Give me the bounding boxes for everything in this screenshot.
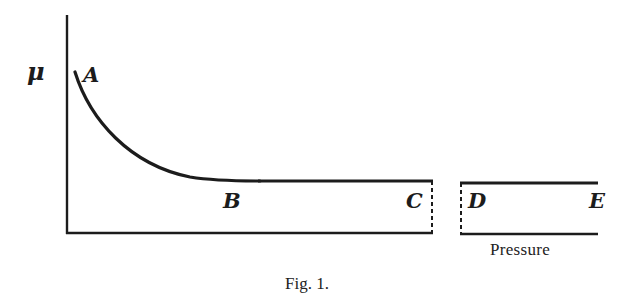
figure-1: μ A B C D E Pressure Fig. 1.	[0, 0, 641, 307]
y-axis-label: μ	[27, 60, 45, 84]
point-label-d: D	[468, 190, 486, 211]
point-label-e: E	[589, 190, 605, 211]
point-label-b: B	[223, 190, 241, 211]
curve-a-b	[75, 72, 260, 181]
figure-caption: Fig. 1.	[285, 274, 329, 294]
point-label-c: C	[406, 190, 423, 211]
point-label-a: A	[83, 64, 99, 85]
x-axis-label: Pressure	[490, 240, 550, 260]
mu-pressure-plot	[0, 0, 641, 307]
